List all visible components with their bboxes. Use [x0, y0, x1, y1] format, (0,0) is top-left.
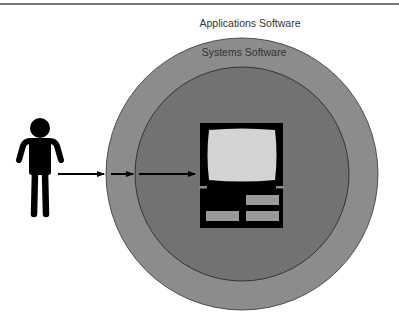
- applications-software-label: Applications Software: [200, 17, 301, 29]
- systems-software-label: Systems Software: [202, 46, 287, 58]
- computer-icon: [199, 123, 284, 228]
- software-layers-diagram: [0, 0, 399, 333]
- person-icon: [19, 118, 61, 214]
